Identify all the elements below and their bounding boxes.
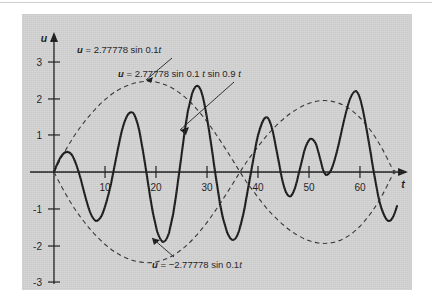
annot-mod-eq: = 2.77778 sin 0.1 <box>124 68 202 79</box>
annotation-upper-envelope-text: u = 2.77778 sin 0.1t <box>77 44 162 55</box>
y-axis-arrow <box>50 32 58 42</box>
annot-lower-t: t <box>239 259 242 270</box>
y-tick-label-3: 3 <box>36 57 42 68</box>
y-axis-label: u <box>41 32 48 44</box>
x-tick-label-60: 60 <box>354 182 366 193</box>
x-tick-label-30: 30 <box>201 182 213 193</box>
chart-svg: 10 20 30 40 50 60 3 2 1 -1 -2 -3 <box>22 14 412 290</box>
annot-upper-eq: = 2.77778 sin 0.1 <box>83 44 159 55</box>
annot-lower-eq: = −2.77778 sin 0.1 <box>158 259 239 270</box>
annot-upper-t: t <box>159 44 162 55</box>
annotation-lower-envelope: u = −2.77778 sin 0.1t <box>152 238 242 270</box>
x-ticks-group: 10 20 30 40 50 60 <box>99 166 366 193</box>
annot-mod-eq2: sin 0.9 <box>205 68 238 79</box>
x-tick-label-20: 20 <box>150 182 162 193</box>
y-tick-label-neg2: -2 <box>33 241 42 252</box>
modulated-curve <box>54 86 397 242</box>
y-tick-label-1: 1 <box>36 130 42 141</box>
x-axis-arrow <box>398 168 408 176</box>
chart-panel: 10 20 30 40 50 60 3 2 1 -1 -2 -3 <box>22 14 412 290</box>
annot-mod-t2: t <box>238 68 241 79</box>
x-axis-label: t <box>401 178 405 190</box>
y-tick-label-neg1: -1 <box>33 204 42 215</box>
annotation-modulated-text: u = 2.77778 sin 0.1 t sin 0.9 t <box>118 68 241 79</box>
figure-page: 10 20 30 40 50 60 3 2 1 -1 -2 -3 <box>0 0 432 302</box>
annotation-lower-envelope-text: u = −2.77778 sin 0.1t <box>152 259 242 270</box>
page-top-rule <box>0 2 432 3</box>
annotation-modulated: u = 2.77778 sin 0.1 t sin 0.9 t <box>118 68 241 135</box>
x-tick-label-40: 40 <box>252 182 264 193</box>
upper-envelope-curve <box>54 81 396 243</box>
modulated-curve-group <box>54 86 397 242</box>
x-tick-label-50: 50 <box>303 182 315 193</box>
y-tick-label-neg3: -3 <box>33 277 42 288</box>
y-tick-label-2: 2 <box>36 94 42 105</box>
